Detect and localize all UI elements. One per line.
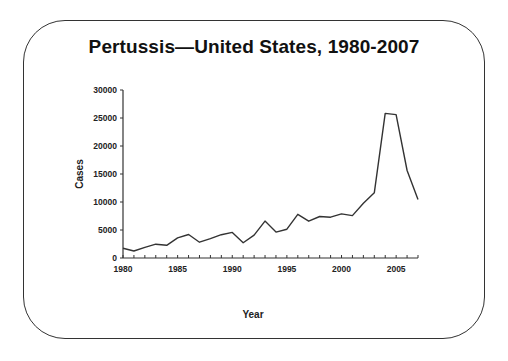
y-tick-label: 0 (112, 253, 117, 263)
x-tick-label: 1995 (277, 264, 296, 274)
y-tick-label: 5000 (98, 225, 117, 235)
y-tick-label: 15000 (93, 169, 117, 179)
axes (123, 90, 418, 258)
y-axis-label: Cases (74, 159, 85, 189)
y-tick-label: 30000 (93, 85, 117, 95)
x-tick-label: 1990 (223, 264, 242, 274)
y-tick-label: 25000 (93, 113, 117, 123)
y-axis-ticks: 050001000015000200002500030000 (93, 85, 123, 263)
y-tick-label: 10000 (93, 197, 117, 207)
x-axis-label: Year (242, 309, 263, 320)
x-tick-label: 2005 (387, 264, 406, 274)
x-tick-label: 1980 (114, 264, 133, 274)
cases-series-line (123, 113, 418, 251)
y-tick-label: 20000 (93, 141, 117, 151)
x-tick-label: 1985 (168, 264, 187, 274)
line-chart: 050001000015000200002500030000 198019851… (0, 0, 508, 361)
x-tick-label: 2000 (332, 264, 351, 274)
